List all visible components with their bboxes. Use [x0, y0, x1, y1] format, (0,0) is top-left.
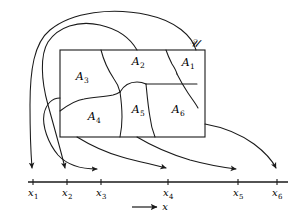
map-curve-a6-to-x6[interactable]: [205, 124, 276, 168]
region-a4-label: A4: [88, 111, 101, 122]
axis-tick-label-x6: x6: [272, 188, 282, 198]
boundary-a5-a6: [146, 84, 155, 137]
diagram-svg: [0, 0, 300, 224]
region-a3-subscript: 3: [84, 75, 89, 84]
axis-tick-x5-letter: x: [233, 187, 239, 198]
boundary-a3-a2: [101, 50, 120, 92]
axis-tick-label-x3: x3: [96, 188, 106, 198]
boundary-a2-a1: [166, 50, 177, 74]
axis-tick-x2-letter: x: [62, 187, 68, 198]
axis-tick-label-x4: x4: [163, 188, 173, 198]
axis-tick-x1-letter: x: [28, 187, 34, 198]
map-curve-a4-to-x4[interactable]: [77, 137, 166, 168]
axis-tick-label-x1: x1: [28, 188, 38, 198]
axis-tick-label-x2: x2: [62, 188, 72, 198]
region-a6-subscript: 6: [180, 108, 185, 117]
region-a2-subscript: 2: [140, 60, 145, 69]
region-a1-letter: A: [182, 56, 190, 69]
region-a1-subscript: 1: [190, 61, 195, 70]
region-a1-label: A1: [182, 57, 195, 68]
region-a4-subscript: 4: [96, 115, 101, 124]
axis-tick-x6-letter: x: [272, 187, 278, 198]
boundary-a3-a4: [60, 92, 120, 111]
region-a6-label: A6: [172, 104, 185, 115]
region-a5-letter: A: [132, 103, 140, 116]
universe-label: 𝒰: [189, 38, 199, 49]
axis-tick-x3-subscript: 3: [102, 193, 106, 201]
axis-tick-x4-letter: x: [163, 187, 169, 198]
boundary-a4-a5: [120, 92, 122, 137]
boundary-a2-a5-top: [120, 82, 146, 92]
map-curve-a2-to-x2[interactable]: [42, 23, 137, 168]
region-a3-label: A3: [76, 71, 89, 82]
region-a4-letter: A: [88, 110, 96, 123]
axis-name-label: x: [162, 202, 168, 212]
axis-tick-x4-subscript: 4: [169, 193, 173, 201]
axis-tick-label-x5: x5: [233, 188, 243, 198]
region-a2-letter: A: [132, 55, 140, 68]
region-a5-label: A5: [132, 104, 145, 115]
figure-canvas: 𝒰 A3 A2 A1 A4 A5 A6 x1 x2 x3 x4 x5 x6 x: [0, 0, 300, 224]
region-a2-label: A2: [132, 56, 145, 67]
axis-tick-x1-subscript: 1: [34, 193, 38, 201]
axis-tick-x6-subscript: 6: [278, 193, 282, 201]
region-a5-subscript: 5: [140, 108, 145, 117]
axis-tick-x5-subscript: 5: [239, 193, 243, 201]
region-a6-letter: A: [172, 103, 180, 116]
region-a3-letter: A: [76, 70, 84, 83]
axis-tick-x3-letter: x: [96, 187, 102, 198]
axis-tick-x2-subscript: 2: [68, 193, 72, 201]
